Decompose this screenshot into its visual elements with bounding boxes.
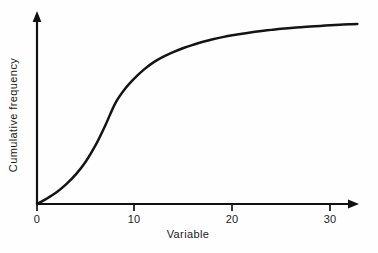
x-axis-title: Variable bbox=[167, 228, 210, 240]
x-tick-label-20: 20 bbox=[226, 213, 239, 225]
chart-plot-area bbox=[0, 0, 378, 253]
x-tick-label-30: 30 bbox=[324, 213, 337, 225]
cumulative-frequency-curve bbox=[37, 24, 357, 204]
x-axis-arrow-icon bbox=[348, 200, 359, 209]
x-tick-label-0: 0 bbox=[34, 213, 40, 225]
x-tick-label-10: 10 bbox=[128, 213, 141, 225]
chart-figure: 0 10 20 30 Variable Cumulative frequency bbox=[0, 0, 378, 253]
y-axis-title: Cumulative frequency bbox=[7, 58, 19, 172]
y-axis-arrow-icon bbox=[33, 11, 42, 22]
